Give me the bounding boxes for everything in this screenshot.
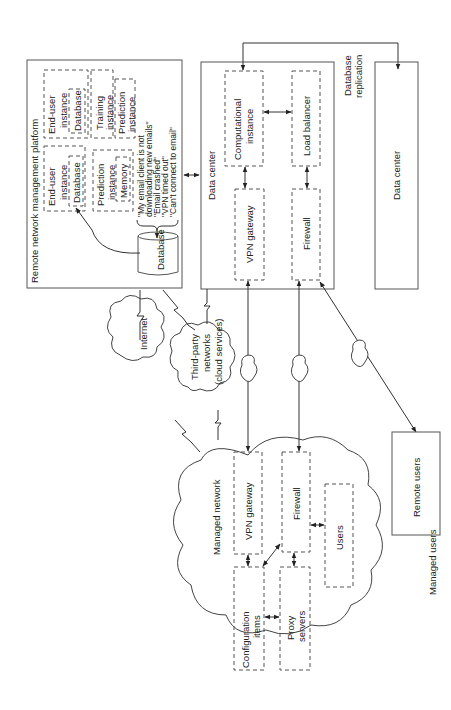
tunnel-cloud-icon [291,355,308,382]
db-link-arrow [76,208,140,253]
data-center-main: Data center Computational instance Load … [201,62,334,289]
lightning-link-icon [204,289,210,324]
vpn-gateway-label: VPN gateway [244,205,255,263]
third-party-label: networks [201,334,212,372]
prediction-label: Prediction [95,164,106,206]
training-instance-label: instance [104,95,115,130]
third-party-label: Third-party [189,334,200,380]
end-user-label: End-user [46,167,57,206]
platform-title: Remote network management platform [29,119,40,283]
users-label: Users [334,525,345,550]
remote-users-label: Remote users [411,458,422,517]
prediction-instance-label: instance [126,97,137,132]
database-label: Database [71,162,82,203]
instance-label: instance [58,93,69,128]
remote-network-management-platform: Remote network management platform End-u… [27,60,182,288]
proxy-label: Proxy [285,615,296,640]
prediction-instance-label: instance [106,165,117,200]
incident-text: "Can't connect to email" [168,127,178,217]
database-label: Database [155,229,166,270]
instance-label: instance [58,165,69,200]
managed-network-title: Managed network [211,479,222,555]
third-party-label: (cloud services) [213,318,224,385]
replication-label: replication [353,55,364,98]
lightning-link-icon [215,410,221,440]
lightning-link-icon [175,420,200,452]
firewall-label: Firewall [291,487,302,520]
memory-label: Memory [118,163,129,198]
tunnel-cloud-icon [351,340,368,367]
firewall-label: Firewall [301,217,312,250]
data-center-box [201,62,334,289]
computational-label: Computational [232,99,243,160]
end-user-label: End-user [46,95,57,134]
internet-cloud[interactable] [107,295,164,360]
data-center-title: Data center [206,151,217,200]
database-label: Database [72,90,83,131]
tunnel-cloud-icon [240,355,257,382]
managed-users-label: Managed users [427,529,438,595]
items-label: items [251,615,262,638]
managed-network-cloud[interactable] [173,437,382,634]
instance-label: instance [244,109,255,144]
data-center-secondary-title: Data center [391,151,402,200]
vpn-gateway-label: VPN gateway [243,482,254,540]
servers-label: servers [296,611,307,642]
load-balancer-label: Load balancer [301,96,312,156]
replication-label: Database [342,55,353,96]
configuration-label: Configuration [240,611,251,668]
